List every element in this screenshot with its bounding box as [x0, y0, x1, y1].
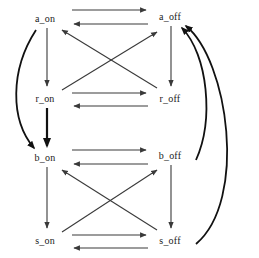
- node-a_off[interactable]: a_off: [158, 11, 182, 22]
- edge-group-diagonal-upper: [62, 30, 157, 90]
- node-b_on[interactable]: b_on: [34, 152, 57, 163]
- node-s_on[interactable]: s_on: [34, 235, 56, 246]
- node-s_off[interactable]: s_off: [158, 235, 181, 246]
- node-a_on[interactable]: a_on: [34, 13, 56, 24]
- edge-r_on-to-a_off: [62, 32, 157, 90]
- edge-group-vertical: [47, 26, 171, 228]
- node-r_on[interactable]: r_on: [34, 93, 55, 104]
- node-r_off[interactable]: r_off: [159, 93, 182, 104]
- edge-s_off-to-a_off-curve: [186, 26, 227, 244]
- edge-a_on-to-b_on-curve: [16, 30, 36, 148]
- node-b_off[interactable]: b_off: [158, 150, 182, 161]
- edge-group-horizontal: [72, 10, 148, 248]
- edge-group-diagonal-lower: [62, 170, 157, 232]
- state-diagram-canvas: a_on a_off r_on r_off b_on b_off s_on s_…: [0, 0, 259, 258]
- graph-edges-layer: [0, 0, 259, 258]
- edge-r_off-to-a_on: [62, 30, 157, 88]
